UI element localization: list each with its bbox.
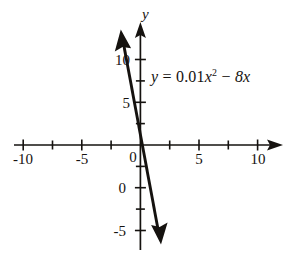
x-tick-label-10: 10 bbox=[251, 152, 266, 167]
graph-figure: -10 -5 0 5 10 10 5 0 -5 y y = 0.01x2 − 8… bbox=[0, 0, 287, 255]
equation-equals: = bbox=[163, 68, 172, 85]
x-tick-label--5: -5 bbox=[76, 152, 89, 167]
equation-coefficient: 0.01 bbox=[176, 68, 205, 85]
y-tick-label--10: -5 bbox=[100, 224, 126, 239]
curve-arrowhead-down-icon bbox=[151, 223, 168, 245]
x-tick-label--10: -10 bbox=[13, 152, 33, 167]
x-tick-label-5: 5 bbox=[195, 152, 203, 167]
equation-linear-term: 8x bbox=[235, 68, 251, 85]
x-axis bbox=[14, 140, 283, 151]
y-tick-label--5: 0 bbox=[100, 181, 126, 196]
equation-operator: − bbox=[221, 68, 230, 85]
x-tick-label-0: 0 bbox=[129, 150, 137, 165]
y-axis-name: y bbox=[142, 7, 149, 22]
y-tick-label-10: 10 bbox=[104, 53, 130, 68]
equation-variable: x bbox=[205, 68, 212, 85]
y-tick-label-5: 5 bbox=[104, 96, 130, 111]
coordinate-plane bbox=[0, 0, 287, 255]
equation-annotation: y = 0.01x2 − 8x bbox=[151, 69, 250, 85]
